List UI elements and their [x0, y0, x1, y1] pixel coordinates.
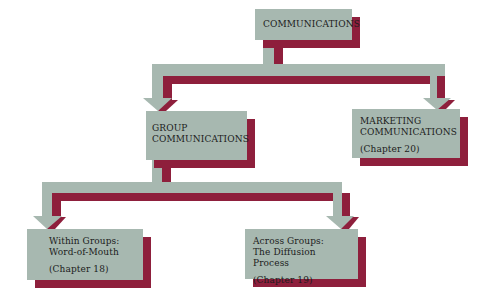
node-within-groups: Within Groups: Word-of-Mouth (Chapter 18… [27, 229, 143, 280]
node-title: COMMUNICATIONS [263, 19, 344, 30]
node-title-line-2: COMMUNICATIONS [360, 127, 452, 138]
node-chapter: (Chapter 18) [49, 264, 121, 275]
node-group-communications: GROUP COMMUNICATIONS [146, 111, 247, 160]
node-title-line-2: COMMUNICATIONS [152, 134, 241, 145]
node-chapter: (Chapter 19) [253, 275, 350, 286]
node-communications: COMMUNICATIONS [255, 9, 352, 40]
node-title-line-2: The Diffusion Process [253, 247, 350, 269]
node-title-line-1: Across Groups: [253, 236, 350, 247]
node-title-line-1: MARKETING [360, 116, 452, 127]
node-marketing-communications: MARKETING COMMUNICATIONS (Chapter 20) [352, 109, 460, 158]
node-title-line-1: GROUP [152, 123, 241, 134]
node-chapter: (Chapter 20) [360, 144, 452, 155]
node-across-groups: Across Groups: The Diffusion Process (Ch… [245, 229, 358, 279]
node-title-line-1: Within Groups: [49, 236, 121, 247]
node-title-line-2: Word-of-Mouth [49, 247, 121, 258]
